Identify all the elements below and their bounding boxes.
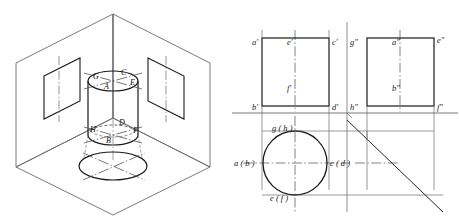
iso-label-G: G <box>93 72 99 81</box>
centerlines-group <box>243 30 400 212</box>
forty-five-degree-mitre-line <box>347 120 443 212</box>
side-view-labels: g″ a″ e″ b″ h″ f″ <box>350 35 445 112</box>
left-plane-window <box>44 58 80 119</box>
label-g-double: g″ <box>350 37 358 47</box>
label-c-prime: c′ <box>332 37 338 47</box>
iso-label-E: E <box>129 78 135 87</box>
label-cd: c ( d ) <box>330 158 350 168</box>
iso-label-B: B <box>106 136 111 145</box>
label-f-prime: f′ <box>287 83 291 93</box>
technical-drawing-page: G C A E H D B F <box>0 0 459 220</box>
label-e-double: e″ <box>437 35 445 45</box>
iso-label-A: A <box>103 82 109 91</box>
label-e-prime: e′ <box>287 37 293 47</box>
right-vertical-plane <box>113 14 210 167</box>
isometric-projection-box: G C A E H D B F <box>0 0 232 220</box>
label-ab: a ( b ) <box>234 158 255 168</box>
three-view-projection: a′ e′ c′ f′ b′ d′ g″ a″ e″ b″ h″ f″ g ( … <box>230 0 459 220</box>
side-view-projectors <box>367 106 434 190</box>
label-h-double: h″ <box>350 102 358 112</box>
front-view-rectangle <box>262 38 329 106</box>
label-a-prime: a′ <box>252 37 258 47</box>
iso-label-C: C <box>121 68 127 77</box>
label-b-double: b″ <box>392 83 400 93</box>
label-gh: g ( h ) <box>272 123 293 133</box>
label-f-double: f″ <box>437 102 443 112</box>
isometric-point-labels: G C A E H D B F <box>89 68 138 145</box>
left-vertical-plane <box>16 14 113 167</box>
mitre-line-origin-tick <box>347 113 352 118</box>
label-a-double: a″ <box>392 37 400 47</box>
iso-label-F: F <box>132 126 138 135</box>
label-b-prime: b′ <box>252 102 258 112</box>
side-view-rectangle <box>367 38 434 106</box>
front-view-projectors <box>262 30 329 190</box>
iso-label-D: D <box>118 118 125 127</box>
label-ef: e ( f ) <box>270 193 288 203</box>
label-d-prime: d′ <box>332 102 338 112</box>
horizontal-ground-plane <box>16 118 210 215</box>
